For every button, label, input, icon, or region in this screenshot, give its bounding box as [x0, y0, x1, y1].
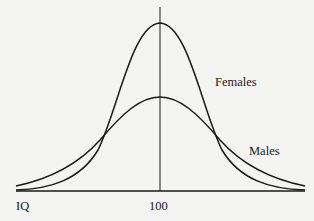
females-label: Females [215, 76, 257, 89]
chart-plot-area [0, 0, 314, 221]
mean-tick-label: 100 [149, 200, 168, 213]
males-label: Males [249, 145, 280, 158]
x-axis-label: IQ [16, 200, 29, 213]
iq-distribution-chart: Females Males IQ 100 [0, 0, 314, 221]
